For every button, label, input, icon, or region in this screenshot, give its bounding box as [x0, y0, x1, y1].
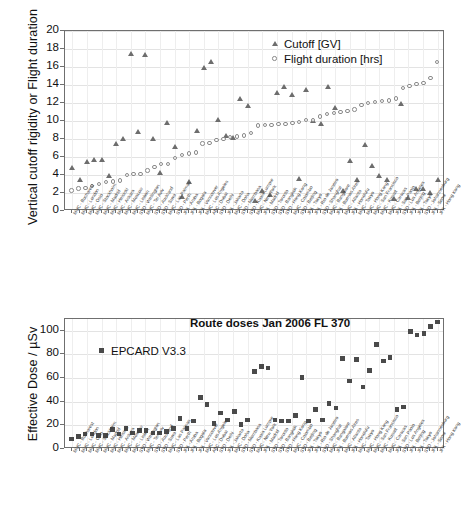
x-axis-tick-mark [342, 210, 343, 213]
x-axis-tick-mark [393, 448, 394, 451]
x-axis-tick-mark [159, 448, 160, 451]
x-axis-tick-mark [239, 210, 240, 213]
x-axis-tick-mark [378, 210, 379, 213]
x-axis-tick-mark [400, 448, 401, 451]
x-axis-tick-mark [108, 210, 109, 213]
x-axis-tick-mark [437, 448, 438, 451]
x-axis-tick-mark [305, 210, 306, 213]
x-axis-tick-mark [291, 210, 292, 213]
x-axis-tick-mark [342, 448, 343, 451]
x-axis-tick-mark [174, 210, 175, 213]
x-axis-tick-mark [415, 210, 416, 213]
x-axis-tick-mark [115, 448, 116, 451]
x-axis-tick-mark [312, 210, 313, 213]
x-axis-tick-mark [312, 448, 313, 451]
figure-cutoff-flight-duration: Vertical cutoff rigidity or Flight durat… [0, 0, 468, 288]
x-axis-tick-mark [305, 448, 306, 451]
x-axis-tick-mark [422, 448, 423, 451]
x-axis-tick-mark [71, 448, 72, 451]
x-axis-tick-mark [181, 448, 182, 451]
x-axis-tick-mark [291, 448, 292, 451]
x-axis-tick-mark [386, 448, 387, 451]
x-axis-tick-mark [196, 210, 197, 213]
x-axis-tick-mark [349, 210, 350, 213]
x-axis-tick-mark [115, 210, 116, 213]
x-axis-tick-mark [196, 448, 197, 451]
x-axis-tick-mark [393, 210, 394, 213]
x-axis-tick-mark [144, 448, 145, 451]
x-axis-tick-mark [371, 210, 372, 213]
x-axis-tick-mark [356, 448, 357, 451]
x-axis-tick-mark [210, 448, 211, 451]
x-axis-tick-mark [225, 210, 226, 213]
x-axis-tick-mark [203, 210, 204, 213]
x-axis-tick-mark [239, 448, 240, 451]
x-axis-tick-mark [79, 210, 80, 213]
x-axis-tick-mark [386, 210, 387, 213]
x-axis-tick-mark [93, 448, 94, 451]
x-axis-tick-mark [217, 210, 218, 213]
figure-effective-dose: Effective Dose / µSv 020406080100 Route … [0, 290, 468, 522]
x-axis-tick-mark [327, 210, 328, 213]
x-axis-tick-mark [166, 448, 167, 451]
x-axis-tick-mark [254, 448, 255, 451]
x-axis-tick-mark [378, 448, 379, 451]
x-axis-tick-mark [320, 210, 321, 213]
x-axis-labels-top: MUC - BucharestMUC - LondonMUC - OsloMUC… [0, 0, 468, 288]
x-axis-tick-mark [407, 448, 408, 451]
x-axis-tick-mark [152, 448, 153, 451]
x-axis-tick-mark [269, 448, 270, 451]
x-axis-tick-mark [130, 448, 131, 451]
x-axis-tick-mark [247, 210, 248, 213]
x-axis-tick-mark [371, 448, 372, 451]
x-axis-labels-bottom: MUC - BucharestMUC - LondonMUC - OsloMUC… [0, 290, 468, 522]
x-axis-tick-mark [122, 210, 123, 213]
x-axis-tick-mark [269, 210, 270, 213]
x-axis-tick-mark [327, 448, 328, 451]
x-axis-tick-mark [356, 210, 357, 213]
x-axis-tick-mark [437, 210, 438, 213]
x-axis-tick-mark [93, 210, 94, 213]
x-axis-tick-mark [166, 210, 167, 213]
x-axis-tick-mark [122, 448, 123, 451]
x-axis-tick-mark [174, 448, 175, 451]
x-axis-tick-mark [101, 448, 102, 451]
x-axis-tick-mark [364, 448, 365, 451]
x-axis-tick-mark [422, 210, 423, 213]
x-axis-tick-mark [415, 448, 416, 451]
x-axis-tick-mark [71, 210, 72, 213]
x-axis-tick-mark [86, 448, 87, 451]
x-axis-tick-mark [334, 210, 335, 213]
x-axis-tick-mark [232, 210, 233, 213]
x-axis-tick-mark [247, 448, 248, 451]
x-axis-tick-mark [349, 448, 350, 451]
x-axis-tick-mark [334, 448, 335, 451]
x-axis-tick-mark [203, 448, 204, 451]
x-axis-tick-mark [261, 448, 262, 451]
x-axis-tick-mark [181, 210, 182, 213]
x-axis-tick-mark [276, 448, 277, 451]
x-axis-tick-mark [429, 448, 430, 451]
x-axis-tick-mark [298, 448, 299, 451]
x-axis-tick-mark [210, 210, 211, 213]
x-axis-tick-mark [188, 210, 189, 213]
x-axis-tick-mark [225, 448, 226, 451]
x-axis-tick-mark [400, 210, 401, 213]
x-axis-tick-mark [232, 448, 233, 451]
x-axis-tick-mark [261, 210, 262, 213]
x-axis-tick-mark [407, 210, 408, 213]
x-axis-tick-mark [101, 210, 102, 213]
x-axis-tick-mark [298, 210, 299, 213]
x-axis-tick-mark [159, 210, 160, 213]
x-axis-tick-mark [152, 210, 153, 213]
x-axis-tick-mark [130, 210, 131, 213]
x-axis-tick-mark [217, 448, 218, 451]
x-axis-tick-mark [364, 210, 365, 213]
x-axis-tick-mark [137, 448, 138, 451]
x-axis-tick-mark [320, 448, 321, 451]
x-axis-tick-mark [86, 210, 87, 213]
x-axis-tick-mark [144, 210, 145, 213]
x-axis-tick-mark [283, 448, 284, 451]
x-axis-tick-mark [137, 210, 138, 213]
x-axis-tick-mark [108, 448, 109, 451]
